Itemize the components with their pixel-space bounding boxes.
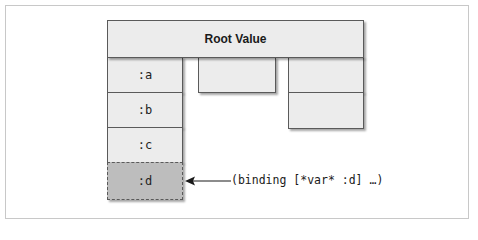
root-value-box: Root Value <box>107 20 364 58</box>
cell-label: :b <box>138 103 152 117</box>
root-value-label: Root Value <box>204 32 266 46</box>
arrow-left-icon <box>185 175 231 187</box>
middle-stack-cell <box>198 57 276 93</box>
binding-annotation: (binding [*var* :d] …) <box>231 172 383 188</box>
binding-cell-b: :b <box>107 92 183 128</box>
binding-cell-c: :c <box>107 127 183 163</box>
right-stack-cell-1 <box>288 57 364 93</box>
right-stack-cell-2 <box>288 92 364 129</box>
cell-label: :c <box>138 138 152 152</box>
cell-label: :a <box>138 68 152 82</box>
binding-cell-d-highlighted: :d <box>107 162 183 200</box>
binding-cell-a: :a <box>107 57 183 93</box>
cell-label: :d <box>138 174 152 188</box>
